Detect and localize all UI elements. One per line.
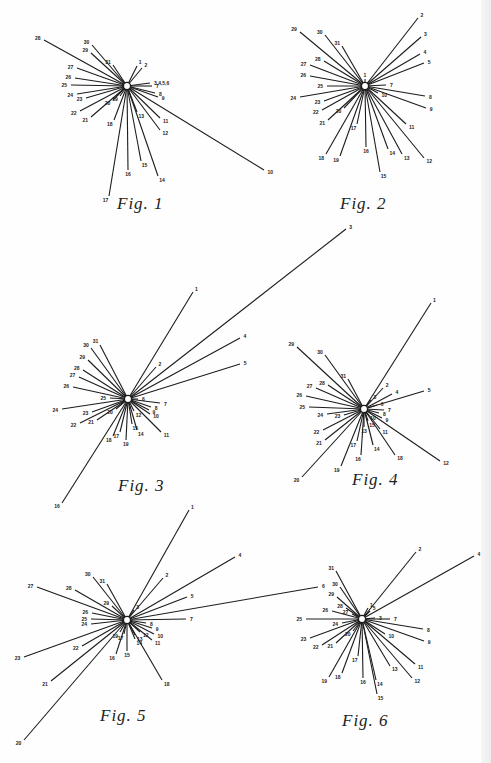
spoke-label: 23 — [315, 99, 321, 105]
spoke-label: 21 — [82, 117, 88, 123]
spoke-label: 30 — [332, 581, 338, 587]
spoke-line — [127, 86, 264, 170]
spoke-label: 11 — [155, 640, 161, 646]
hub-circle — [124, 395, 131, 402]
spoke-label: 7 — [390, 82, 393, 88]
spoke-label: 31 — [329, 565, 335, 571]
spoke-label: 11 — [418, 664, 424, 670]
spoke-label: 29 — [291, 26, 297, 32]
spoke-label: 16 — [363, 148, 369, 154]
spoke-label: 5 — [373, 605, 376, 611]
spoke-label: 4 — [244, 333, 247, 339]
spoke-line — [348, 379, 364, 409]
spoke-label: 22 — [313, 109, 319, 115]
spoke-label: 24 — [333, 621, 339, 627]
spoke-line — [127, 619, 186, 620]
spoke-label: 8 — [429, 94, 432, 100]
spoke-label: 12 — [162, 130, 168, 136]
spoke-label: 18 — [397, 455, 403, 461]
spoke-line — [297, 347, 364, 409]
spoke-label: 2 — [419, 546, 422, 552]
figure-fig6: 1234578910111213141516171819202122232425… — [296, 546, 480, 701]
spoke-label: 30 — [317, 29, 323, 35]
spoke-label: 17 — [103, 197, 109, 203]
spoke-line — [362, 619, 423, 629]
spoke-label: 20 — [294, 477, 300, 483]
spoke-label: 6 — [322, 583, 325, 589]
hub-circle — [123, 616, 130, 623]
spoke-label: 18 — [106, 437, 112, 443]
document-page: 123,4,5,67891011121314151617181920212223… — [0, 0, 491, 763]
spoke-label: 17 — [351, 442, 357, 448]
hub-circle — [360, 405, 367, 412]
spoke-label: 12 — [143, 632, 149, 638]
figure-caption: Fig. 2 — [340, 194, 387, 214]
spoke-label: 25 — [296, 616, 302, 622]
spoke-label: 13 — [404, 155, 410, 161]
spoke-label: 23 — [301, 636, 307, 642]
spoke-label: 22 — [313, 644, 319, 650]
spoke-label: 30 — [85, 571, 91, 577]
spoke-label: 18 — [318, 155, 324, 161]
hub-circle — [361, 82, 368, 89]
spoke-label: 17 — [118, 635, 124, 641]
spoke-label: 21 — [320, 120, 326, 126]
spoke-label: 12 — [415, 678, 421, 684]
spoke-label: 16 — [109, 655, 115, 661]
spoke-label: 25 — [81, 616, 87, 622]
spoke-label: 27 — [343, 609, 349, 615]
spoke-label: 10 — [382, 92, 388, 98]
spoke-label: 1 — [139, 59, 142, 65]
spoke-label: 1 — [364, 72, 367, 78]
spoke-line — [340, 86, 365, 156]
spoke-label: 24 — [81, 621, 87, 627]
spoke-label: 28 — [315, 56, 321, 62]
spoke-label: 31 — [93, 338, 99, 344]
spoke-label: 13 — [138, 113, 144, 119]
spoke-label: 2 — [159, 361, 162, 367]
spoke-label: 19 — [123, 441, 129, 447]
spoke-label: 11 — [163, 118, 169, 124]
spoke-label: 7 — [190, 616, 193, 622]
spoke-label: 24 — [291, 95, 297, 101]
spoke-label: 17 — [351, 125, 357, 131]
spoke-label: 25 — [317, 83, 323, 89]
spoke-label: 1 — [195, 286, 198, 292]
spoke-label: 16 — [54, 503, 60, 509]
figure-fig2: 1234578910111213141516171819202122232425… — [291, 12, 433, 179]
spoke-label: 19 — [334, 467, 340, 473]
spoke-line — [128, 364, 240, 399]
spoke-label: 11 — [383, 429, 389, 435]
spoke-label: 28 — [337, 603, 343, 609]
spoke-label: 26 — [301, 72, 307, 78]
spoke-label: 12 — [136, 412, 142, 418]
spoke-line — [336, 571, 362, 619]
spoke-label: 15 — [142, 162, 148, 168]
spoke-label: 5 — [428, 59, 431, 65]
spoke-label: 9 — [430, 106, 433, 112]
spoke-label: 1 — [433, 297, 436, 303]
figure-fig1: 123,4,5,67891011121314151617181920212223… — [35, 35, 273, 203]
spoke-label: 2 — [145, 62, 148, 68]
radial-diagram-plates: 123,4,5,67891011121314151617181920212223… — [0, 0, 491, 763]
figure-fig3: 1234567891011121415161718192021222324252… — [52, 224, 352, 510]
spoke-label: 15 — [378, 695, 384, 701]
spoke-label: 7 — [156, 83, 159, 89]
spoke-label: 3 — [379, 615, 382, 621]
spoke-label: 10 — [267, 169, 273, 175]
spoke-line — [128, 338, 240, 399]
spoke-label: 25 — [299, 404, 305, 410]
spoke-label: 31 — [100, 578, 106, 584]
spoke-label: 19 — [321, 678, 327, 684]
spoke-line — [329, 619, 362, 677]
spoke-label: 15 — [381, 173, 387, 179]
spoke-label: 18 — [107, 121, 113, 127]
spoke-label: 23 — [15, 655, 21, 661]
spoke-line — [128, 292, 193, 399]
spoke-label: 22 — [314, 429, 320, 435]
spoke-label: 17 — [352, 657, 358, 663]
spoke-label: 22 — [71, 110, 77, 116]
spoke-label: 14 — [159, 177, 165, 183]
figure-caption: Fig. 5 — [100, 706, 147, 726]
spoke-line — [300, 32, 365, 86]
